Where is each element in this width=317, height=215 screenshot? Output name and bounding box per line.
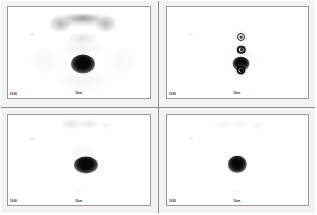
oral-cavity-uptake-blob [66,13,100,22]
corner-label-top-right: 10:00 [169,93,176,96]
scan-image-top-left: 10:00 10cm [8,7,150,98]
sternum-marker-blob [74,189,84,193]
salivary-gland-right-blob [232,119,250,127]
panel-top-right[interactable]: 10:00 10cm [159,0,317,107]
scale-marker-top-left: 10cm [75,92,82,95]
panel-bottom-right[interactable]: 10:00 10cm [159,108,317,215]
fiducial-marker-1 [237,33,245,41]
reference-point-dot [29,138,35,141]
fiducial-marker-2 [237,45,246,54]
focal-hot-lesion [228,156,246,172]
panel-top-left[interactable]: 10:00 10cm [0,0,158,107]
reference-point-dot [29,33,35,36]
reference-point-dot [188,33,194,36]
image-frame-top-left: 10:00 10cm [7,6,151,99]
shoulder-right-blob [106,48,137,75]
focal-hot-lesion [74,157,98,174]
corner-label-top-left: 10:00 [10,93,17,96]
salivary-gland-right-blob [79,119,99,128]
mediastinum-uptake-blob [56,70,110,92]
reference-point-dot [188,137,194,140]
submandibular-uptake-blob [99,122,113,129]
shoulder-left-blob [29,48,60,75]
submandibular-uptake-blob [250,122,264,129]
scan-image-top-right: 10:00 10cm [167,7,309,98]
scale-marker-bottom-right: 10cm [234,200,241,203]
scintigraphy-viewer: 10:00 10cm [0,0,316,214]
scale-marker-top-right: 10cm [234,92,241,95]
sternum-marker-blob [232,190,242,194]
scan-image-bottom-left: 10:00 10cm [8,115,150,206]
panel-bottom-left[interactable]: 10:00 10cm [0,108,158,215]
fiducial-marker-1-core [240,36,243,39]
fiducial-marker-3 [237,66,246,75]
scale-marker-bottom-left: 10cm [75,200,82,203]
thyroid-bed-activity-blob [69,32,97,44]
salivary-gland-left-blob [214,120,232,128]
image-frame-top-right: 10:00 10cm [166,6,310,99]
focal-hot-lesion [71,55,95,74]
image-frame-bottom-left: 10:00 10cm [7,114,151,207]
corner-label-bottom-right: 10:00 [169,200,176,203]
corner-label-bottom-left: 10:00 [10,200,17,203]
image-frame-bottom-right: 10:00 10cm [166,114,310,207]
scan-image-bottom-right: 10:00 10cm [167,115,309,206]
panel-grid: 10:00 10cm [0,0,316,214]
